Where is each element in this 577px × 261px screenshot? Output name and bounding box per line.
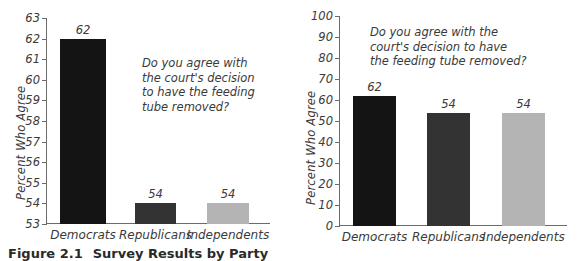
y-tick-left: [42, 39, 47, 40]
y-tick-left: [42, 183, 47, 184]
y-tick-label-right: 0: [326, 219, 333, 233]
figure-caption: Figure 2.1Survey Results by Party: [8, 246, 268, 261]
y-tick-left: [42, 80, 47, 81]
y-tick-label-left: 59: [25, 93, 40, 107]
annotation-line: Do you agree with the: [370, 25, 527, 40]
y-tick-label-left: 63: [25, 11, 40, 25]
y-tick-right: [335, 58, 340, 59]
x-axis-label-democrats-left: Democrats: [50, 228, 116, 242]
annotation-line: to have the feeding: [142, 85, 255, 100]
chart-panel-right: Percent Who Agree 0 10 20 30 40 50 60 70…: [290, 0, 577, 257]
y-tick-right: [335, 100, 340, 101]
y-tick-label-right: 50: [318, 114, 333, 128]
y-tick-label-left: 55: [25, 176, 40, 190]
y-tick-label-right: 100: [311, 9, 333, 23]
bar-value-independents-left: 54: [221, 187, 236, 201]
x-axis-label-republicans-left: Republicans: [119, 228, 192, 242]
y-tick-label-left: 57: [25, 135, 40, 149]
y-tick-right: [335, 121, 340, 122]
chart-panel-left: Percent Who Agree 53 54 55 56 57 58 59 6…: [0, 0, 290, 257]
annotation-line: the court's decision: [142, 71, 255, 86]
y-tick-right: [335, 37, 340, 38]
y-tick-label-left: 58: [25, 114, 40, 128]
annotation-line: tube removed?: [142, 100, 255, 115]
x-axis-label-independents-right: Independents: [482, 230, 564, 244]
y-tick-label-left: 61: [25, 52, 40, 66]
y-tick-right: [335, 184, 340, 185]
figure-caption-text: Survey Results by Party: [93, 246, 268, 261]
x-axis-label-republicans-right: Republicans: [412, 230, 485, 244]
y-tick-label-right: 40: [318, 135, 333, 149]
y-tick-left: [42, 100, 47, 101]
y-axis-label-right: Percent Who Agree: [304, 91, 318, 205]
y-tick-left: [42, 121, 47, 122]
bar-democrats-left[interactable]: 62 Democrats: [60, 39, 106, 224]
y-tick-left: [42, 142, 47, 143]
y-tick-left: [42, 59, 47, 60]
y-tick-label-right: 10: [318, 198, 333, 212]
chart-annotation-left: Do you agree with the court's decision t…: [142, 56, 255, 114]
bar-independents-right[interactable]: 54 Independents: [502, 113, 545, 226]
plot-area-left: 53 54 55 56 57 58 59 60 61 62 63 62 Demo…: [46, 18, 270, 224]
chart-annotation-right: Do you agree with the court's decision t…: [370, 25, 527, 69]
bar-value-republicans-left: 54: [148, 187, 163, 201]
x-axis-label-independents-left: Independents: [187, 228, 269, 242]
y-tick-label-right: 60: [318, 93, 333, 107]
y-tick-label-right: 70: [318, 72, 333, 86]
y-tick-right: [335, 226, 340, 227]
x-axis-label-democrats-right: Democrats: [342, 230, 408, 244]
bar-republicans-left[interactable]: 54 Republicans: [135, 203, 176, 224]
y-tick-left: [42, 162, 47, 163]
bar-independents-left[interactable]: 54 Independents: [207, 203, 249, 224]
y-tick-right: [335, 205, 340, 206]
y-tick-right: [335, 16, 340, 17]
y-tick-left: [42, 203, 47, 204]
y-tick-label-left: 56: [25, 155, 40, 169]
y-tick-label-left: 60: [25, 73, 40, 87]
y-tick-left: [42, 224, 47, 225]
y-tick-right: [335, 142, 340, 143]
y-tick-left: [42, 18, 47, 19]
bar-value-democrats-left: 62: [76, 23, 91, 37]
y-tick-label-left: 53: [25, 217, 40, 231]
y-tick-label-right: 80: [318, 51, 333, 65]
annotation-line: Do you agree with: [142, 56, 255, 71]
y-tick-label-right: 90: [318, 30, 333, 44]
bar-value-independents-right: 54: [516, 97, 531, 111]
figure-caption-number: Figure 2.1: [8, 246, 83, 261]
y-tick-label-right: 20: [318, 177, 333, 191]
y-tick-label-left: 54: [25, 196, 40, 210]
annotation-line: the feeding tube removed?: [370, 54, 527, 69]
bar-republicans-right[interactable]: 54 Republicans: [427, 113, 470, 226]
y-tick-right: [335, 79, 340, 80]
annotation-line: court's decision to have: [370, 40, 527, 55]
y-tick-label-left: 62: [25, 32, 40, 46]
y-tick-label-right: 30: [318, 156, 333, 170]
bar-value-republicans-right: 54: [441, 97, 456, 111]
bar-democrats-right[interactable]: 62 Democrats: [353, 96, 396, 226]
y-tick-right: [335, 163, 340, 164]
bar-value-democrats-right: 62: [367, 80, 382, 94]
